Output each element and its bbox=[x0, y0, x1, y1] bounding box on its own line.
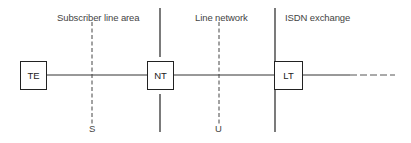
area-label-line-network: Line network bbox=[195, 12, 248, 23]
reference-point-s: S bbox=[89, 123, 95, 134]
block-lt-label: LT bbox=[283, 70, 293, 81]
block-te-label: TE bbox=[27, 70, 39, 81]
block-nt: NT bbox=[147, 61, 174, 90]
area-label-isdn-exchange: ISDN exchange bbox=[285, 12, 350, 23]
block-te: TE bbox=[20, 61, 47, 90]
block-lt: LT bbox=[274, 61, 303, 90]
block-nt-label: NT bbox=[154, 70, 167, 81]
area-label-subscriber: Subscriber line area bbox=[57, 12, 140, 23]
reference-point-u: U bbox=[215, 123, 222, 134]
